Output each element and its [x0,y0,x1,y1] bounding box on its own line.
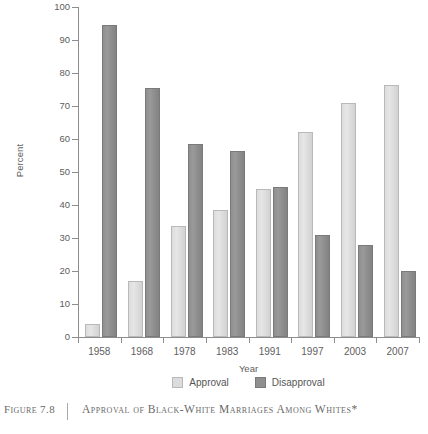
y-axis-label: 100 [44,2,70,12]
caption-figure-number: Figure 7.8 [4,403,55,415]
bar-approval-2007 [384,85,399,337]
x-axis-tick [249,337,250,343]
x-axis-tick [121,337,122,343]
bar-group [171,7,203,337]
y-axis-label: 50 [44,167,70,177]
x-axis-tick [334,337,335,343]
x-axis-tick [376,337,377,343]
legend-swatch-disapproval [255,377,266,388]
bar-disapproval-1958 [102,25,117,337]
legend-item-disapproval: Disapproval [255,377,325,388]
legend-label-approval: Approval [189,377,228,388]
bar-approval-1958 [85,324,100,337]
caption-title: Approval of Black-White Marriages Among … [82,403,358,415]
y-axis-label: 10 [44,299,70,309]
bar-group [128,7,160,337]
bar-disapproval-2007 [401,271,416,337]
x-axis-tick [163,337,164,343]
bar-disapproval-1991 [273,187,288,337]
bar-disapproval-1968 [145,88,160,337]
bar-group [85,7,117,337]
x-axis-tick [291,337,292,343]
figure-caption: Figure 7.8 Approval of Black-White Marri… [4,403,424,420]
bar-group [256,7,288,337]
legend-swatch-approval [172,377,183,388]
bar-group [213,7,245,337]
y-axis-label: 0 [44,332,70,342]
bar-approval-1997 [298,132,313,337]
x-axis-tick [206,337,207,343]
x-axis-tick [419,337,420,343]
y-axis-label: 90 [44,35,70,45]
bar-group [298,7,330,337]
bar-approval-1991 [256,189,271,338]
bar-disapproval-2003 [358,245,373,337]
y-axis-title: Percent [14,111,25,211]
x-axis-tick [78,337,79,343]
y-axis-label: 80 [44,68,70,78]
bar-approval-1968 [128,281,143,337]
bar-disapproval-1997 [315,235,330,337]
figure-container: 0102030405060708090100 Percent 195819681… [0,0,428,434]
y-axis-label: 20 [44,266,70,276]
chart-legend: ApprovalDisapproval [78,377,419,388]
bar-approval-2003 [341,103,356,337]
bar-approval-1983 [213,210,228,337]
bar-approval-1978 [171,226,186,337]
plot-area [78,7,418,337]
bar-disapproval-1983 [230,151,245,337]
bar-group [341,7,373,337]
bar-disapproval-1978 [188,144,203,337]
y-axis-label: 30 [44,233,70,243]
bar-group [384,7,416,337]
x-axis-label-2007: 2007 [368,346,428,357]
x-axis-title: Year [78,363,419,374]
y-axis-label: 60 [44,134,70,144]
y-axis-label: 70 [44,101,70,111]
caption-divider [67,403,68,420]
legend-label-disapproval: Disapproval [272,377,325,388]
y-axis-label: 40 [44,200,70,210]
legend-item-approval: Approval [172,377,228,388]
